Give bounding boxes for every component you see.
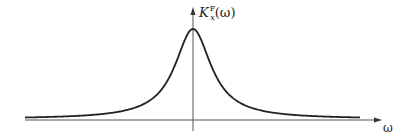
x-axis-label: ω (383, 121, 393, 135)
x-axis-arrow-icon (374, 118, 382, 123)
y-axis-arrow-icon (191, 7, 196, 15)
y-label-argument: (ω) (215, 5, 236, 20)
y-label-main: K (199, 5, 209, 20)
y-axis-label: KFx(ω) (199, 4, 236, 22)
